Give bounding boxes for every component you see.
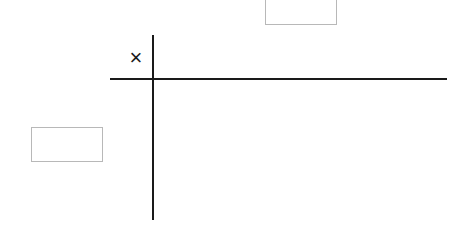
- top-factor-box[interactable]: [265, 0, 337, 25]
- multiplication-sign-icon: ×: [126, 46, 146, 70]
- grid-vertical-line: [152, 35, 154, 220]
- left-factor-box[interactable]: [31, 127, 103, 162]
- multiplication-grid-diagram: ×: [0, 0, 471, 236]
- grid-horizontal-line: [110, 78, 447, 80]
